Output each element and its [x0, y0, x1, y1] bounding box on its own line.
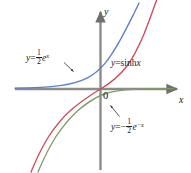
hyperbolic-sine-figure: y=12ex y=sinhx y=−12e−x y x 0: [0, 0, 191, 173]
x-axis-label: x: [179, 94, 183, 105]
leader-line-neg-half-exp: [111, 106, 120, 117]
annotation-half-exp-equals: =: [30, 53, 35, 63]
y-axis-label: y: [104, 6, 108, 17]
annotation-half-exp-denominator: 2: [36, 58, 41, 66]
curve-neg-half-exp: [38, 89, 173, 172]
annotation-half-exp-fraction: 12: [36, 49, 41, 66]
plot-canvas: [0, 0, 191, 173]
annotation-sinh: y=sinhx: [111, 59, 141, 69]
annotation-sinh-function: sinh: [121, 58, 137, 68]
annotation-neg-half-exp-exponent: −x: [137, 121, 144, 128]
annotation-sinh-argument: x: [136, 58, 140, 68]
annotation-neg-half-exp-sign: −: [121, 122, 126, 132]
annotation-half-exp-exponent: x: [46, 52, 49, 59]
leader-line-half-exp: [64, 63, 74, 72]
curve-half-exp: [15, 3, 139, 88]
annotation-half-exponential: y=12ex: [26, 49, 49, 66]
origin-label: 0: [103, 90, 108, 101]
annotation-negative-half-exponential: y=−12e−x: [111, 118, 144, 135]
